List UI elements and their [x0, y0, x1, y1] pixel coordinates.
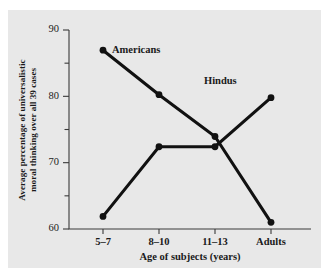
- series-label-hindus: Hindus: [204, 75, 237, 86]
- chart-panel: 90 80 70 60 5–7 8–10 11–13 Adults Age of…: [8, 10, 321, 268]
- series-markers-americans: [100, 47, 275, 226]
- line-chart: 90 80 70 60 5–7 8–10 11–13 Adults Age of…: [8, 10, 321, 268]
- y-tick-label-60: 60: [49, 222, 60, 233]
- figure-root: 90 80 70 60 5–7 8–10 11–13 Adults Age of…: [0, 0, 331, 276]
- series-label-americans: Americans: [112, 44, 160, 55]
- y-tick-label-80: 80: [49, 90, 60, 101]
- y-axis-title-line2: moral thinking over all 39 cases: [28, 68, 38, 193]
- x-axis-ticks: [103, 229, 271, 234]
- series-line-americans: [103, 50, 271, 222]
- series-markers-hindus: [100, 94, 275, 220]
- y-tick-label-70: 70: [49, 156, 60, 167]
- x-axis-title: Age of subjects (years): [139, 251, 241, 263]
- x-tick-label-5-7: 5–7: [95, 236, 111, 247]
- axis-lines: [69, 30, 311, 229]
- y-tick-label-90: 90: [49, 23, 60, 34]
- x-tick-label-adults: Adults: [256, 236, 286, 247]
- y-axis-minor-ticks: [65, 63, 70, 196]
- x-tick-label-8-10: 8–10: [149, 236, 170, 247]
- y-axis-title-line1: Average percentage of universalistic: [17, 59, 27, 200]
- x-tick-label-11-13: 11–13: [202, 236, 228, 247]
- y-axis-title: Average percentage of universalistic mor…: [17, 59, 38, 200]
